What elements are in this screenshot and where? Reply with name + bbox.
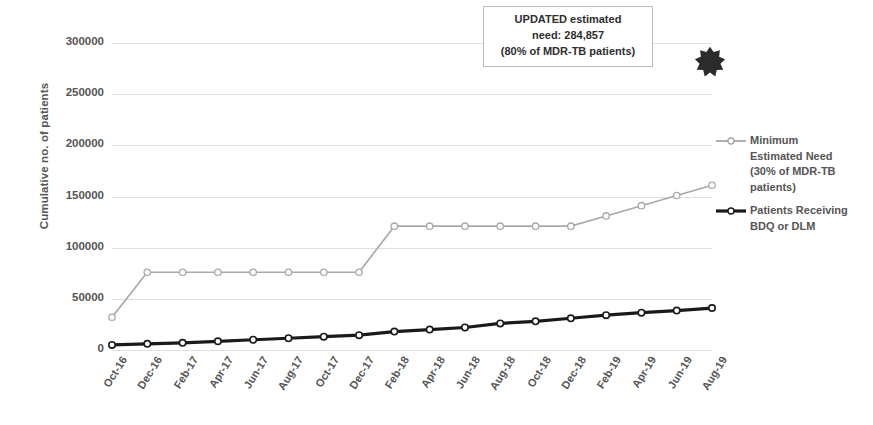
x-axis-tick-label: Jun-17 <box>241 354 270 390</box>
x-axis-tick-label: Aug-18 <box>487 354 517 392</box>
data-point-marker <box>497 223 503 229</box>
legend-label: patients) <box>750 180 868 196</box>
callout-line: need: 284,857 <box>488 28 648 44</box>
data-point-marker <box>285 335 291 341</box>
chart-legend: MinimumEstimated Need(30% of MDR-TBpatie… <box>716 133 868 243</box>
data-point-marker <box>144 269 150 275</box>
data-point-marker <box>109 342 115 348</box>
data-point-marker <box>462 223 468 229</box>
data-point-marker <box>497 320 503 326</box>
x-axis-tick-label: Dec-17 <box>347 354 376 391</box>
data-point-marker <box>109 314 115 320</box>
y-axis-tick-label: 150000 <box>38 189 104 201</box>
data-point-marker <box>426 326 432 332</box>
data-point-marker <box>638 309 644 315</box>
burst-star-icon <box>694 46 726 78</box>
data-point-marker <box>426 223 432 229</box>
x-axis-tick-label: Feb-17 <box>171 354 200 390</box>
data-point-marker <box>285 269 291 275</box>
x-axis-tick-label: Apr-17 <box>206 354 235 390</box>
data-point-marker <box>568 315 574 321</box>
data-point-marker <box>674 192 680 198</box>
legend-swatch <box>716 136 746 146</box>
x-axis-ticks: Oct-16Dec-16Feb-17Apr-17Jun-17Aug-17Oct-… <box>112 352 712 422</box>
legend-label: Minimum <box>750 133 868 149</box>
data-point-marker <box>144 341 150 347</box>
gridline <box>112 350 712 351</box>
data-point-marker <box>215 269 221 275</box>
data-series-layer <box>112 43 712 350</box>
data-point-marker <box>391 223 397 229</box>
callout-line: (80% of MDR-TB patients) <box>488 44 648 60</box>
legend-swatch <box>716 206 746 216</box>
legend-label: Patients Receiving <box>750 203 868 219</box>
x-axis-tick-label: Aug-17 <box>276 354 306 392</box>
x-axis-tick-label: Dec-18 <box>559 354 588 391</box>
series-2 <box>109 305 715 348</box>
series-line <box>112 308 712 345</box>
data-point-marker <box>709 182 715 188</box>
data-point-marker <box>638 203 644 209</box>
data-point-marker <box>391 328 397 334</box>
x-axis-tick-label: Apr-18 <box>418 354 447 390</box>
updated-estimated-need-callout: UPDATED estimatedneed: 284,857(80% of MD… <box>483 6 653 67</box>
x-axis-tick-label: Aug-19 <box>699 354 729 392</box>
y-axis-tick-label: 100000 <box>38 240 104 252</box>
callout-line: UPDATED estimated <box>488 12 648 28</box>
data-point-marker <box>674 307 680 313</box>
data-point-marker <box>250 269 256 275</box>
y-axis-tick-label: 0 <box>38 342 104 354</box>
x-axis-tick-label: Feb-18 <box>383 354 412 390</box>
data-point-marker <box>603 213 609 219</box>
data-point-marker <box>532 223 538 229</box>
legend-item[interactable]: MinimumEstimated Need(30% of MDR-TBpatie… <box>716 133 868 195</box>
legend-label: (30% of MDR-TB <box>750 164 868 180</box>
x-axis-tick-label: Jun-18 <box>453 354 482 390</box>
x-axis-tick-label: Apr-19 <box>630 354 659 390</box>
data-point-marker <box>321 333 327 339</box>
data-point-marker <box>603 312 609 318</box>
data-point-marker <box>568 223 574 229</box>
x-axis-tick-label: Feb-19 <box>594 354 623 390</box>
y-axis-tick-label: 300000 <box>38 35 104 47</box>
data-point-marker <box>709 305 715 311</box>
y-axis-tick-label: 200000 <box>38 137 104 149</box>
x-axis-tick-label: Oct-16 <box>101 354 129 389</box>
legend-label: BDQ or DLM <box>750 219 868 235</box>
data-point-marker <box>462 324 468 330</box>
legend-label: Estimated Need <box>750 149 868 165</box>
data-point-marker <box>356 332 362 338</box>
plot-area: 050000100000150000200000250000300000 <box>112 43 712 350</box>
data-point-marker <box>215 338 221 344</box>
data-point-marker <box>321 269 327 275</box>
y-axis-tick-label: 50000 <box>38 291 104 303</box>
data-point-marker <box>532 318 538 324</box>
x-axis-tick-label: Oct-18 <box>524 354 552 389</box>
data-point-marker <box>179 340 185 346</box>
chart-root: Cumulative no. of patients 0500001000001… <box>0 0 873 425</box>
y-axis-tick-label: 250000 <box>38 86 104 98</box>
series-line <box>112 185 712 317</box>
data-point-marker <box>250 337 256 343</box>
legend-item[interactable]: Patients ReceivingBDQ or DLM <box>716 203 868 234</box>
x-axis-tick-label: Dec-16 <box>135 354 164 391</box>
series-1 <box>109 182 715 320</box>
data-point-marker <box>179 269 185 275</box>
x-axis-tick-label: Jun-19 <box>665 354 694 390</box>
x-axis-tick-label: Oct-17 <box>313 354 341 389</box>
data-point-marker <box>356 269 362 275</box>
